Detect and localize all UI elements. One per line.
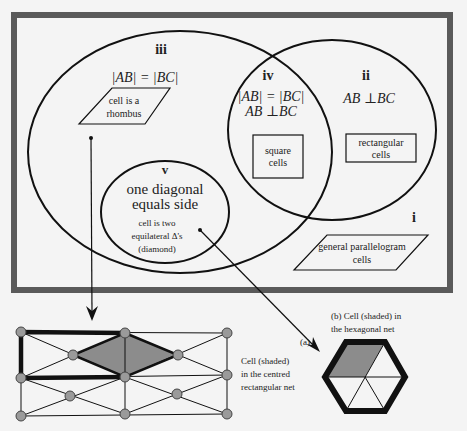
figure-a-caption-2: in the centred (241, 369, 290, 379)
rhombus-text-1: cell is a (109, 95, 140, 106)
label-ii: ii (362, 68, 370, 83)
arrow-to-rect-net (86, 136, 98, 321)
hexagonal-net (325, 342, 405, 411)
heading-v-2: equals side (132, 196, 199, 212)
figure-b-caption-1: (b) Cell (shaded) in (331, 311, 402, 321)
label-iv: iv (263, 68, 274, 83)
condition-iii: |AB| = |BC| (112, 70, 179, 85)
parallelogram-text-2: cells (353, 254, 371, 265)
parallelogram-text-1: general parallelogram (318, 241, 406, 252)
rectangle-text-1: rectangular (359, 137, 405, 148)
diamond-text-3: (diamond) (138, 244, 176, 254)
condition-iv-2: AB ⊥BC (244, 104, 297, 119)
diamond-text-2: equilateral Δ's (131, 231, 183, 241)
label-iii: iii (155, 42, 167, 57)
condition-ii: AB ⊥BC (342, 91, 395, 106)
figure-a-tag: (a) (300, 337, 310, 347)
condition-iv-1: |AB| = |BC| (238, 89, 305, 104)
figure-a-caption-1: Cell (shaded) (241, 356, 289, 366)
square-text-2: cells (269, 157, 287, 168)
centred-rectangular-net (16, 327, 232, 421)
diamond-text-1: cell is two (139, 218, 176, 228)
label-i: i (412, 210, 416, 225)
rectangle-text-2: cells (372, 149, 390, 160)
figure-a-caption-3: rectangular net (241, 382, 295, 392)
lattice-venn-diagram: iii |AB| = |BC| cell is a rhombus iv |AB… (0, 0, 467, 431)
rhombus-text-2: rhombus (107, 108, 142, 119)
label-v: v (162, 162, 169, 177)
square-text-1: square (265, 145, 292, 156)
figure-b-caption-2: the hexagonal net (331, 324, 395, 334)
ellipse-ii (228, 40, 436, 220)
heading-v-1: one diagonal (126, 181, 203, 197)
